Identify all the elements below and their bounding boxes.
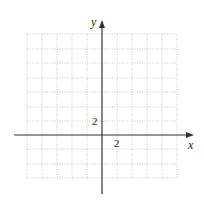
x-tick-label: 2 (114, 137, 120, 149)
coordinate-plane: x y 2 2 (0, 0, 204, 203)
y-axis-label: y (90, 15, 97, 29)
y-axis-arrow-icon (99, 20, 105, 28)
x-axis-label: x (187, 138, 194, 152)
y-tick-label: 2 (92, 115, 98, 127)
